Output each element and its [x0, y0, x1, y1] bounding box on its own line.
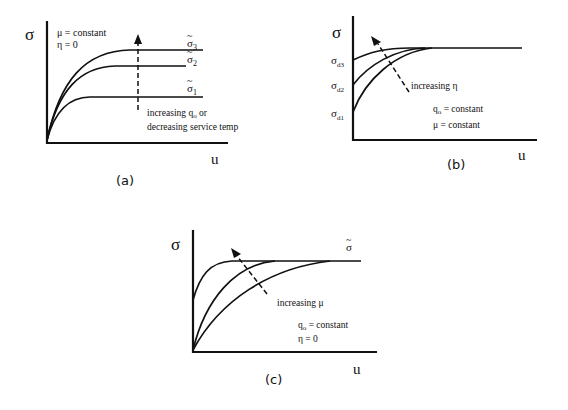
panel-b-tick-sigma-d1: σd1 — [331, 107, 344, 122]
panel-b-note: increasing η — [411, 81, 457, 91]
panel-c-caption: (c) — [265, 372, 282, 387]
panel-c-condition-eta: η = 0 — [298, 334, 318, 344]
arrow-up-left-icon — [371, 36, 381, 46]
panel-b-curve-d2 — [353, 48, 425, 85]
panel-b-condition-mu: μ = constant — [433, 120, 480, 130]
panel-b-curve-d1 — [353, 48, 432, 112]
panel-c-x-label: u — [353, 361, 361, 377]
panel-a-condition-mu: μ = constant — [57, 27, 107, 38]
panel-a-note-line2: decreasing service temp — [147, 122, 239, 132]
panel-b-condition-qo: qo = constant — [433, 104, 483, 116]
panel-c: σ σ ~ increasing μ qo = constant η = 0 u… — [171, 230, 377, 387]
panel-a: σ μ = constant η = 0 σ3 ~ σ2 ~ σ1 ~ incr… — [25, 21, 239, 188]
arrow-up-left-icon — [231, 248, 241, 258]
panel-b-curve-d3 — [353, 48, 522, 60]
panel-b-x-label: u — [518, 147, 526, 163]
panel-b-tick-sigma-d2: σd2 — [331, 79, 344, 94]
panel-b-y-label: σ — [332, 23, 341, 42]
figure-canvas: σ μ = constant η = 0 σ3 ~ σ2 ~ σ1 ~ incr… — [0, 0, 568, 410]
panel-a-tilde3: ~ — [187, 30, 193, 41]
panel-b: σ σd3 σd2 σd1 increasing η qo = constant… — [331, 16, 537, 172]
panel-c-y-label: σ — [171, 235, 180, 254]
panel-c-condition-qo: qo = constant — [298, 320, 348, 332]
panel-a-y-label: σ — [25, 25, 34, 44]
panel-b-caption: (b) — [447, 157, 465, 172]
panel-a-x-label: u — [211, 151, 219, 167]
panel-a-caption: (a) — [116, 173, 134, 188]
panel-a-tilde1: ~ — [187, 75, 193, 86]
panel-a-condition-eta: η = 0 — [57, 39, 78, 50]
panel-a-curve-sigma1 — [47, 97, 203, 140]
arrow-up-icon — [134, 34, 142, 44]
panel-b-tick-sigma-d3: σd3 — [331, 54, 344, 69]
figure-svg: σ μ = constant η = 0 σ3 ~ σ2 ~ σ1 ~ incr… — [0, 0, 568, 410]
panel-c-note: increasing μ — [277, 298, 324, 308]
panel-a-note-line1: increasing qo or — [147, 108, 208, 120]
panel-c-plateau-tilde: ~ — [346, 234, 352, 245]
panel-a-tilde2: ~ — [187, 46, 193, 57]
